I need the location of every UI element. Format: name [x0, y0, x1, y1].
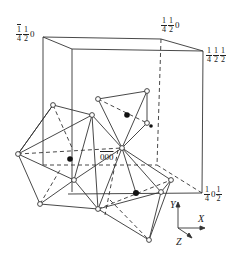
cell-edge [202, 51, 203, 193]
axis-y-label: Y [170, 199, 176, 210]
atom-vertex [72, 178, 77, 183]
corner-label-back-top-left: 14120 [16, 26, 35, 43]
cell-top-face [43, 37, 203, 51]
atom-vertex [145, 89, 150, 94]
atom-vertex [96, 207, 101, 212]
atom-vertex [90, 113, 95, 118]
corner-label-back-top-right: 14120 [161, 17, 180, 34]
center-atom [149, 124, 153, 128]
crystal-structure-diagram [0, 0, 243, 257]
atom-vertex [38, 202, 43, 207]
atom-vertex [16, 152, 21, 157]
corner-label-front-top-right: 141212 [206, 47, 227, 64]
cell-hidden-edge [157, 39, 161, 165]
axis-z-label: Z [176, 236, 182, 247]
origin-atom [120, 146, 125, 151]
axis-x-label: X [198, 213, 204, 224]
atom-vertex [51, 103, 56, 108]
atom-vertex [169, 178, 174, 183]
center-atom [67, 156, 73, 162]
center-atom [124, 112, 130, 118]
atom-vertex [147, 238, 152, 243]
origin-label: 000 [100, 153, 114, 162]
atom-vertex [145, 121, 150, 126]
atom-vertex [96, 97, 101, 102]
center-atom [133, 190, 139, 196]
atom-vertex [159, 190, 164, 195]
corner-label-front-bottom-right: 14012 [204, 186, 223, 203]
